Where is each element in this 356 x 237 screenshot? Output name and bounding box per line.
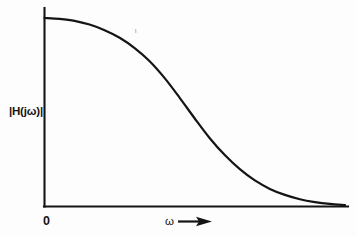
plot-canvas: [0, 0, 356, 237]
filter-magnitude-response-figure: |H(jω)| 0 ω: [0, 0, 356, 237]
x-axis-label: ω: [165, 216, 174, 228]
origin-tick-label: 0: [43, 215, 50, 228]
y-axis-label: |H(jω)|: [9, 106, 43, 118]
magnitude-response-curve: [45, 18, 346, 205]
scan-speck: [135, 29, 136, 33]
